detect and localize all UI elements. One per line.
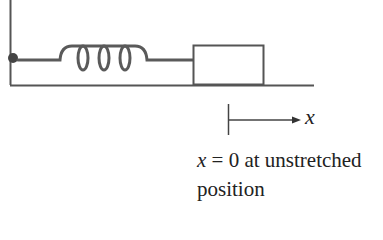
caption-variable: x [197,148,206,172]
caption: x = 0 at unstretched position [197,146,362,204]
caption-line-2: position [197,175,362,204]
x-axis-label: x [305,106,315,128]
spring [18,46,194,70]
pivot-icon [8,53,18,63]
caption-line-1: x = 0 at unstretched [197,146,362,175]
caption-equation: = 0 at unstretched [206,148,361,172]
mass-block [194,46,264,85]
arrowhead-icon [292,117,301,124]
